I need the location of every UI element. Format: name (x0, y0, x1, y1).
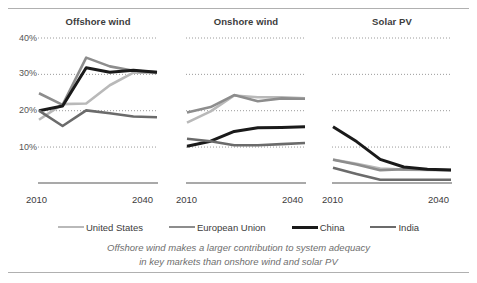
legend-item-china[interactable]: China (292, 222, 345, 233)
legend-swatch-icon (370, 226, 396, 228)
legend-swatch-icon (58, 226, 84, 228)
x-start-onshore-wind: 2010 (176, 194, 197, 205)
plot-canvas (186, 30, 306, 188)
plot-onshore-wind (186, 30, 306, 188)
x-start-offshore-wind: 2010 (26, 194, 47, 205)
x-start-solar-pv: 2010 (322, 194, 343, 205)
series-line-european-union (39, 58, 157, 105)
bottom-divider (8, 272, 469, 273)
legend-label: European Union (197, 222, 266, 233)
caption-line-1: Offshore wind makes a larger contributio… (0, 241, 477, 255)
y-tick-20: 20% (6, 105, 37, 115)
y-tick-30: 30% (6, 68, 37, 78)
plot-offshore-wind (38, 30, 158, 188)
figure-caption: Offshore wind makes a larger contributio… (0, 241, 477, 269)
series-line-india (39, 110, 157, 126)
chart-legend: United StatesEuropean UnionChinaIndia (0, 219, 477, 235)
x-end-solar-pv: 2040 (428, 194, 449, 205)
plot-canvas (332, 30, 452, 188)
legend-swatch-icon (292, 226, 318, 229)
legend-label: India (398, 222, 419, 233)
y-tick-40: 40% (6, 33, 37, 43)
panel-title-offshore-wind: Offshore wind (38, 16, 158, 27)
plot-canvas (38, 30, 158, 188)
x-end-onshore-wind: 2040 (282, 194, 303, 205)
caption-line-2: in key markets than onshore wind and sol… (0, 255, 477, 269)
chart-figure: 40% 30% 20% 10% Offshore wind 2010 2040 … (0, 0, 477, 283)
legend-label: China (320, 222, 345, 233)
panel-title-onshore-wind: Onshore wind (186, 16, 306, 27)
legend-item-european-union[interactable]: European Union (169, 222, 266, 233)
plot-solar-pv (332, 30, 452, 188)
panel-title-solar-pv: Solar PV (332, 16, 452, 27)
top-divider (8, 8, 469, 9)
y-tick-10: 10% (6, 142, 37, 152)
legend-label: United States (86, 222, 143, 233)
series-line-european-union (187, 95, 305, 112)
legend-item-india[interactable]: India (370, 222, 419, 233)
x-end-offshore-wind: 2040 (132, 194, 153, 205)
legend-item-united-states[interactable]: United States (58, 222, 143, 233)
legend-swatch-icon (169, 226, 195, 228)
